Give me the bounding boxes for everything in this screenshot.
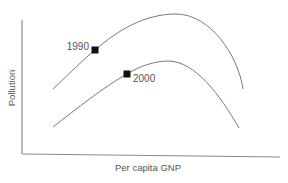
label-2000: 2000 [133, 73, 156, 84]
y-axis-label: Pollution [6, 70, 17, 106]
curve-2000 [53, 61, 239, 128]
marker-1990 [92, 47, 99, 54]
x-axis-label: Per capita GNP [115, 162, 181, 173]
kuznets-curve-chart: Pollution Per capita GNP 1990 2000 [0, 0, 288, 183]
x-axis [22, 154, 280, 157]
label-1990: 1990 [67, 41, 90, 52]
marker-2000 [124, 71, 131, 78]
